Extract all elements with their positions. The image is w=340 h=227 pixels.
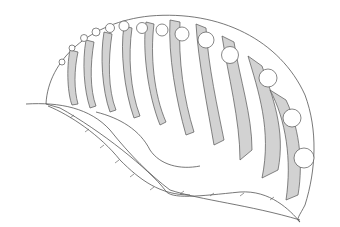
illustration-canvas bbox=[0, 0, 340, 227]
organism-illustration bbox=[0, 0, 340, 227]
